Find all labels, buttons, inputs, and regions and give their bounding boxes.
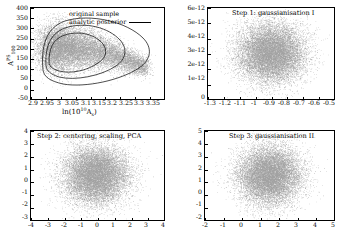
- tick-mark-y: [31, 208, 34, 209]
- tick-mark-y: [208, 8, 211, 9]
- tick-mark-y: [31, 69, 34, 70]
- ytick-label: 4e-12: [173, 33, 205, 39]
- legend-posterior-line: [129, 22, 151, 23]
- tick-mark-y: [31, 144, 34, 145]
- xtick-label: 0: [239, 222, 243, 228]
- xtick-label: -1.1: [234, 100, 246, 106]
- tick-mark-y: [31, 28, 34, 29]
- tick-mark-y: [31, 157, 34, 158]
- legend-row-posterior: analytic posterior: [69, 18, 151, 26]
- legend-original-sample: original sample analytic posterior: [69, 10, 151, 26]
- tick-mark-y: [208, 39, 211, 40]
- ytick-label: 6e-12: [173, 5, 205, 11]
- xtick-label: 1: [111, 222, 115, 228]
- xtick-label: 2: [276, 222, 280, 228]
- ytick-label: 150: [8, 55, 28, 61]
- panel-title-step1: Step 1: gaussianisation I: [232, 10, 314, 17]
- ytick-label: 200: [8, 45, 28, 51]
- ytick-label: 400: [8, 5, 28, 11]
- axis-label-x-original: ln(1010As): [62, 109, 97, 116]
- xtick-label: -0.5: [323, 100, 335, 106]
- xtick-label: -3: [45, 222, 51, 228]
- xtick-label: -1: [78, 222, 84, 228]
- xtick-label: -1.3: [204, 100, 216, 106]
- panel-original-sample: APS100 400 350 300 250 200 150 100 50 0 …: [0, 0, 170, 121]
- ytick-label: 3e-12: [173, 47, 205, 53]
- ytick-label: -2: [184, 214, 202, 220]
- xtick-label: 3.15: [92, 100, 106, 106]
- tick-mark-y: [31, 59, 34, 60]
- xtick-label: 4: [161, 222, 165, 228]
- xtick-label: 2.9: [28, 100, 38, 106]
- tick-mark-y: [31, 8, 34, 9]
- xtick-label: -1.2: [219, 100, 231, 106]
- panel-step2: 4 3 2 1 0 -1 -2 -3 Step 2: centering, sc…: [0, 120, 170, 241]
- ytick-label: 0: [12, 177, 28, 183]
- xtick-label: 3: [57, 100, 61, 106]
- tick-mark-y: [31, 18, 34, 19]
- legend-sample-marker: [122, 14, 144, 15]
- tick-mark-y: [205, 170, 208, 171]
- ytick-label: -1: [184, 201, 202, 207]
- ytick-label: -1: [10, 189, 28, 195]
- xtick-label: 2: [128, 222, 132, 228]
- ytick-label: 3: [12, 140, 28, 146]
- tick-mark-y: [205, 144, 208, 145]
- ytick-label: 350: [8, 15, 28, 21]
- xtick-label: 2.95: [40, 100, 54, 106]
- scatter-points-step3: [205, 131, 334, 220]
- xtick-label: -2: [61, 222, 67, 228]
- xtick-label: 0: [95, 222, 99, 228]
- tick-mark-y: [205, 195, 208, 196]
- tick-mark-y: [205, 157, 208, 158]
- ytick-label: 4: [12, 128, 28, 134]
- plot-area-step3: Step 3: gaussianisation II: [204, 130, 335, 221]
- ytick-label: 2e-12: [173, 61, 205, 67]
- ytick-label: 1: [186, 177, 202, 183]
- xtick-label: -0.6: [308, 100, 320, 106]
- tick-mark-y: [31, 182, 34, 183]
- xtick-label: 4: [313, 222, 317, 228]
- xtick-label: 3: [144, 222, 148, 228]
- xtick-label: -0.8: [278, 100, 290, 106]
- ytick-label: 2: [186, 165, 202, 171]
- xtick-label: 3: [294, 222, 298, 228]
- tick-mark-y: [31, 170, 34, 171]
- tick-mark-y: [31, 195, 34, 196]
- tick-mark-y: [31, 49, 34, 50]
- ytick-label: 5e-12: [173, 19, 205, 25]
- panel-step3: 5 4 3 2 1 0 -1 -2 Step 3: gaussianisatio…: [170, 120, 339, 241]
- ytick-label: 0: [186, 189, 202, 195]
- ytick-label: -2: [10, 201, 28, 207]
- gaussianisation-figure: APS100 400 350 300 250 200 150 100 50 0 …: [0, 0, 339, 241]
- panel-title-step3: Step 3: gaussianisation II: [229, 133, 314, 140]
- tick-mark-y: [205, 208, 208, 209]
- legend-label-analytic-posterior: analytic posterior: [69, 18, 126, 26]
- ytick-label: 4: [186, 140, 202, 146]
- tick-mark-y: [208, 54, 211, 55]
- ytick-label: 0: [173, 94, 205, 100]
- ytick-label: 2: [12, 152, 28, 158]
- ytick-label: 3: [186, 152, 202, 158]
- ytick-label: 50: [8, 75, 28, 81]
- ytick-label: 300: [8, 25, 28, 31]
- tick-mark-y: [31, 131, 34, 132]
- plot-area-step2: Step 2: centering, scaling, PCA: [30, 130, 165, 221]
- xtick-label: -0.9: [263, 100, 275, 106]
- scatter-points-step1: [208, 8, 334, 99]
- tick-mark-x: [148, 218, 149, 221]
- scatter-points-step2: [31, 131, 164, 220]
- xtick-label: 3.2: [107, 100, 117, 106]
- tick-mark-y: [208, 69, 211, 70]
- xtick-label: -1: [220, 222, 226, 228]
- ytick-label: 0: [8, 85, 28, 91]
- ytick-label: 5: [186, 128, 202, 134]
- tick-mark-y: [208, 85, 211, 86]
- plot-area-step1: Step 1: gaussianisation I: [207, 7, 335, 100]
- xtick-label: 3.3: [134, 100, 144, 106]
- tick-mark-y: [31, 90, 34, 91]
- xtick-label: 5: [331, 222, 335, 228]
- ytick-label: 1e-12: [173, 75, 205, 81]
- xtick-label: 3.1: [81, 100, 91, 106]
- legend-row-sample: original sample: [69, 10, 151, 18]
